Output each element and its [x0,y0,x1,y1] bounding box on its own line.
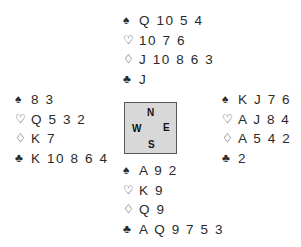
west-hand: ♠8 3 ♡Q 5 3 2 ♢K 7 ♣K 10 8 6 4 [15,90,109,168]
compass-box: N W E S [124,102,177,154]
spade-icon: ♠ [123,161,139,181]
south-clubs: ♣A Q 9 7 5 3 [123,220,224,240]
club-icon: ♣ [222,149,238,169]
spade-icon: ♠ [15,90,31,110]
diamond-icon: ♢ [222,129,238,149]
diamond-icon: ♢ [15,129,31,149]
diamond-icon: ♢ [123,50,139,70]
spade-icon: ♠ [123,11,139,31]
compass-north-label: N [147,107,154,118]
north-clubs: ♣J [123,70,214,90]
heart-icon: ♡ [123,181,139,201]
west-diamonds: ♢K 7 [15,129,109,149]
heart-icon: ♡ [222,110,238,130]
north-hand: ♠Q 10 5 4 ♡10 7 6 ♢J 10 8 6 3 ♣J [123,11,214,89]
north-hearts: ♡10 7 6 [123,31,214,51]
spade-icon: ♠ [222,90,238,110]
diamond-icon: ♢ [123,200,139,220]
north-diamonds: ♢J 10 8 6 3 [123,50,214,70]
south-hearts: ♡K 9 [123,181,224,201]
club-icon: ♣ [15,149,31,169]
compass-west-label: W [132,123,141,134]
south-diamonds: ♢Q 9 [123,200,224,220]
west-clubs: ♣K 10 8 6 4 [15,149,109,169]
club-icon: ♣ [123,70,139,90]
east-diamonds: ♢A 5 4 2 [222,129,291,149]
west-hearts: ♡Q 5 3 2 [15,110,109,130]
east-clubs: ♣2 [222,149,291,169]
club-icon: ♣ [123,220,139,240]
west-spades: ♠8 3 [15,90,109,110]
south-hand: ♠A 9 2 ♡K 9 ♢Q 9 ♣A Q 9 7 5 3 [123,161,224,239]
heart-icon: ♡ [123,31,139,51]
east-hand: ♠K J 7 6 ♡A J 8 4 ♢A 5 4 2 ♣2 [222,90,291,168]
heart-icon: ♡ [15,110,31,130]
compass-south-label: S [148,139,155,150]
south-spades: ♠A 9 2 [123,161,224,181]
north-spades: ♠Q 10 5 4 [123,11,214,31]
east-spades: ♠K J 7 6 [222,90,291,110]
compass-east-label: E [163,122,170,133]
east-hearts: ♡A J 8 4 [222,110,291,130]
